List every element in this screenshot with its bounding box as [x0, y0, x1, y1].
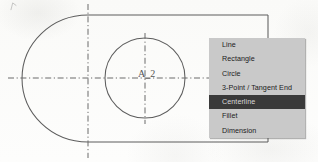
menu-item-label: Centerline — [222, 97, 255, 106]
menu-item-line[interactable]: Line — [209, 38, 305, 52]
menu-item-label: Line — [222, 40, 236, 49]
feature-label-A_2: A_2 — [138, 67, 170, 83]
menu-item-label: Dimension — [222, 126, 256, 135]
menu-item-circle[interactable]: Circle — [209, 67, 305, 81]
menu-item-label: 3-Point / Tangent End — [222, 83, 292, 92]
screenshot-canvas: .solid { fill: none; stroke: #5d5d5d; st… — [0, 0, 318, 162]
menu-item-label: Circle — [222, 69, 241, 78]
sketch-entity-menu[interactable]: Line Rectangle Circle 3-Point / Tangent … — [209, 38, 305, 138]
menu-item-rectangle[interactable]: Rectangle — [209, 52, 305, 66]
menu-item-centerline[interactable]: Centerline — [209, 95, 305, 109]
menu-item-3-point-tangent-end[interactable]: 3-Point / Tangent End — [209, 81, 305, 95]
menu-item-fillet[interactable]: Fillet — [209, 109, 305, 123]
menu-item-dimension[interactable]: Dimension — [209, 124, 305, 138]
menu-item-label: Fillet — [222, 111, 237, 120]
feature-label-text: A_2 — [138, 68, 155, 79]
pen-stroke-artifact — [10, 2, 19, 11]
menu-item-label: Rectangle — [222, 54, 255, 63]
